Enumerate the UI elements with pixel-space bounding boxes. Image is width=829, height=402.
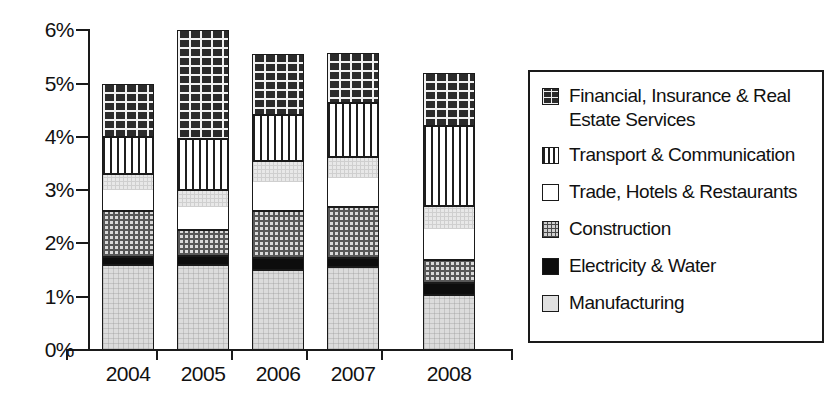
legend-item-label: Electricity & Water bbox=[569, 254, 716, 278]
bar-segment[interactable] bbox=[177, 190, 229, 230]
y-tick bbox=[76, 296, 89, 298]
legend-item-label: Trade, Hotels & Restaurants bbox=[569, 180, 797, 204]
bar-2008[interactable] bbox=[423, 0, 475, 402]
segment-texture bbox=[103, 266, 153, 349]
bar-segment[interactable] bbox=[252, 258, 304, 270]
bar-2004[interactable] bbox=[102, 0, 154, 402]
x-tick bbox=[231, 349, 233, 360]
legend-item[interactable]: Transport & Communication bbox=[542, 143, 814, 169]
x-tick bbox=[381, 349, 383, 360]
y-tick bbox=[76, 136, 89, 138]
y-tick-label: 1% bbox=[2, 286, 74, 307]
legend-item-label: Construction bbox=[569, 217, 671, 241]
bar-2006[interactable] bbox=[252, 0, 304, 402]
y-tick-label: 2% bbox=[2, 232, 74, 253]
y-tick bbox=[76, 83, 89, 85]
segment-texture bbox=[178, 191, 228, 207]
segment-texture bbox=[253, 162, 303, 182]
bar-segment[interactable] bbox=[177, 256, 229, 265]
y-tick-label: 3% bbox=[2, 179, 74, 200]
bar-segment[interactable] bbox=[102, 257, 154, 265]
bar-segment[interactable] bbox=[423, 260, 475, 283]
bar-segment[interactable] bbox=[252, 161, 304, 212]
bar-segment[interactable] bbox=[102, 211, 154, 256]
legend-swatch-icon bbox=[542, 221, 559, 238]
bar-segment[interactable] bbox=[177, 30, 229, 139]
segment-texture bbox=[424, 207, 474, 229]
bar-segment[interactable] bbox=[423, 73, 475, 126]
y-tick-label: 4% bbox=[2, 126, 74, 147]
bar-segment[interactable] bbox=[327, 207, 379, 258]
bar-segment[interactable] bbox=[177, 230, 229, 256]
bar-2007[interactable] bbox=[327, 0, 379, 402]
legend-item-label: Manufacturing bbox=[569, 291, 684, 315]
y-tick bbox=[76, 29, 89, 31]
bar-segment[interactable] bbox=[252, 54, 304, 115]
legend-swatch-icon bbox=[542, 184, 559, 201]
segment-texture bbox=[178, 266, 228, 349]
bar-segment[interactable] bbox=[423, 126, 475, 206]
bar-segment[interactable] bbox=[327, 103, 379, 156]
bar-segment[interactable] bbox=[102, 265, 154, 350]
legend-item[interactable]: Trade, Hotels & Restaurants bbox=[542, 180, 814, 206]
y-tick bbox=[76, 242, 89, 244]
legend-item[interactable]: Electricity & Water bbox=[542, 254, 814, 280]
bar-segment[interactable] bbox=[252, 211, 304, 257]
bar-segment[interactable] bbox=[423, 206, 475, 260]
bar-segment[interactable] bbox=[252, 115, 304, 160]
x-tick bbox=[66, 349, 68, 360]
y-tick bbox=[76, 189, 89, 191]
segment-texture bbox=[424, 296, 474, 349]
segment-texture bbox=[328, 158, 378, 178]
y-tick-label: 0% bbox=[2, 339, 74, 360]
segment-texture bbox=[328, 268, 378, 349]
legend-swatch-icon bbox=[542, 258, 559, 275]
plot-area: 0%1%2%3%4%5%6% 20042005200620072008 bbox=[0, 0, 520, 402]
bar-segment[interactable] bbox=[102, 137, 154, 174]
bar-segment[interactable] bbox=[102, 84, 154, 137]
stacked-bar-chart-figure: 0%1%2%3%4%5%6% 20042005200620072008 Fina… bbox=[0, 0, 829, 402]
segment-texture bbox=[103, 175, 153, 190]
legend-item[interactable]: Financial, Insurance & Real Estate Servi… bbox=[542, 84, 814, 132]
legend-item-label: Transport & Communication bbox=[569, 143, 795, 167]
bar-2005[interactable] bbox=[177, 0, 229, 402]
legend-item[interactable]: Manufacturing bbox=[542, 291, 814, 317]
legend-swatch-icon bbox=[542, 295, 559, 312]
bar-segment[interactable] bbox=[102, 174, 154, 211]
bar-segment[interactable] bbox=[177, 139, 229, 190]
legend-item[interactable]: Construction bbox=[542, 217, 814, 243]
y-tick-label: 6% bbox=[2, 19, 74, 40]
chart-legend: Financial, Insurance & Real Estate Servi… bbox=[528, 70, 824, 343]
bar-segment[interactable] bbox=[177, 265, 229, 350]
y-tick-label: 5% bbox=[2, 73, 74, 94]
bar-segment[interactable] bbox=[423, 283, 475, 295]
bar-segment[interactable] bbox=[252, 270, 304, 350]
legend-item-label: Financial, Insurance & Real Estate Servi… bbox=[569, 84, 791, 132]
legend-swatch-icon bbox=[542, 147, 559, 164]
y-tick bbox=[76, 349, 89, 351]
bar-segment[interactable] bbox=[327, 258, 379, 268]
bar-segment[interactable] bbox=[327, 53, 379, 104]
x-tick bbox=[156, 349, 158, 360]
x-tick bbox=[306, 349, 308, 360]
bar-segment[interactable] bbox=[423, 295, 475, 350]
bar-segment[interactable] bbox=[327, 157, 379, 208]
x-tick bbox=[511, 349, 513, 360]
segment-texture bbox=[253, 271, 303, 349]
bar-segment[interactable] bbox=[327, 267, 379, 350]
legend-swatch-icon bbox=[542, 88, 559, 105]
